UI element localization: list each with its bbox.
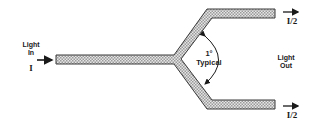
upper-output-intensity: I/2: [282, 17, 302, 26]
angle-label: 1° Typical: [190, 50, 228, 66]
angle-qualifier: Typical: [190, 59, 228, 67]
input-label-line2: In: [20, 49, 42, 56]
output-label-line1: Light: [270, 54, 302, 61]
waveguide-body: [56, 9, 275, 109]
input-label-line1: Light: [20, 41, 42, 48]
lower-output-intensity: I/2: [282, 111, 302, 120]
output-label-line2: Out: [270, 62, 302, 69]
angle-value: 1°: [190, 50, 228, 58]
input-label: Light In: [20, 41, 42, 56]
output-label: Light Out: [270, 54, 302, 69]
y-splitter-diagram: [0, 0, 316, 128]
input-intensity: I: [26, 64, 36, 73]
